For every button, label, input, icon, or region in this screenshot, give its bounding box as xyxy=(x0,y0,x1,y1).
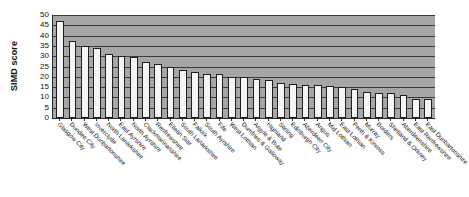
x-label-slot: Highland xyxy=(262,122,274,196)
bar xyxy=(302,85,310,118)
bar xyxy=(56,21,64,118)
x-label-slot: East Renfrewshire xyxy=(409,122,421,196)
x-label-slot: Stirling xyxy=(274,122,286,196)
bar xyxy=(240,77,248,118)
y-tick-label: 15 xyxy=(40,83,49,91)
bar xyxy=(387,93,395,118)
bar-cell xyxy=(324,15,336,118)
plot-area xyxy=(52,15,435,119)
bar-cell xyxy=(299,15,311,118)
bar xyxy=(363,92,371,118)
bar-cell xyxy=(164,15,176,118)
bar xyxy=(375,93,383,118)
y-tick-label: 30 xyxy=(40,52,49,60)
bar-cell xyxy=(250,15,262,118)
x-axis-category-labels: Glasgow CityDundee CityWest Dunbartonshi… xyxy=(52,122,434,196)
bar xyxy=(412,99,420,118)
bar xyxy=(167,67,175,118)
bar-cell xyxy=(397,15,409,118)
bar-cell xyxy=(226,15,238,118)
bar-cell xyxy=(103,15,115,118)
bar xyxy=(314,85,322,118)
bar xyxy=(69,41,77,118)
bar-cell xyxy=(348,15,360,118)
bar xyxy=(228,77,236,118)
bar-cell xyxy=(287,15,299,118)
bar xyxy=(216,74,224,118)
bar xyxy=(154,64,162,118)
x-label-slot: Eilean Siar xyxy=(163,122,175,196)
bar-cell xyxy=(128,15,140,118)
bar xyxy=(277,83,285,118)
x-label-slot: East Ayrshire xyxy=(114,122,126,196)
bar-cell xyxy=(275,15,287,118)
bar-cell xyxy=(189,15,201,118)
bar-cell xyxy=(54,15,66,118)
x-label-slot: West Lothian xyxy=(225,122,237,196)
bar-cell xyxy=(201,15,213,118)
bar-cell xyxy=(373,15,385,118)
x-label-slot: North Lanarkshire xyxy=(102,122,114,196)
y-tick-label: 20 xyxy=(40,73,49,81)
x-label-slot: Mid Lothian xyxy=(323,122,335,196)
x-label-slot: Borders xyxy=(372,122,384,196)
y-tick-label: 35 xyxy=(40,42,49,50)
bar xyxy=(118,56,126,118)
y-tick-label: 45 xyxy=(40,21,49,29)
bar-cell xyxy=(66,15,78,118)
bar-cell xyxy=(238,15,250,118)
x-label-slot: South Lanarkshire xyxy=(176,122,188,196)
bar xyxy=(253,79,261,118)
bar-cell xyxy=(336,15,348,118)
y-axis-tick-labels: 50454035302520151050 xyxy=(30,12,49,118)
bar xyxy=(326,86,334,118)
bar xyxy=(351,89,359,118)
x-label-slot: Murray xyxy=(360,122,372,196)
bar-cell xyxy=(385,15,397,118)
y-tick-label: 0 xyxy=(45,114,49,122)
x-label-slot: Inverclyde xyxy=(90,122,102,196)
x-label-slot: Glasgow City xyxy=(53,122,65,196)
y-axis-title: SIMD score xyxy=(6,18,22,114)
x-label-slot: Shetland & Orkney xyxy=(384,122,396,196)
y-tick-label: 50 xyxy=(40,11,49,19)
bar-cell xyxy=(361,15,373,118)
bar xyxy=(289,84,297,118)
bar-cell xyxy=(422,15,434,118)
x-label-slot: Perth & Kinross xyxy=(347,122,359,196)
bar xyxy=(265,80,273,118)
x-label-slot: West Dunbartonshire xyxy=(78,122,90,196)
bar xyxy=(81,46,89,118)
bar-cell xyxy=(263,15,275,118)
x-label-slot: South Ayrshire xyxy=(200,122,212,196)
x-label-slot: Fife xyxy=(212,122,224,196)
bar-cell xyxy=(410,15,422,118)
bar-cell xyxy=(152,15,164,118)
bar-cell xyxy=(91,15,103,118)
bar xyxy=(203,74,211,118)
bar-cell xyxy=(115,15,127,118)
x-label-slot: Aberdeen City xyxy=(298,122,310,196)
bar-cell xyxy=(79,15,91,118)
y-tick-label: 10 xyxy=(40,93,49,101)
x-label-slot: East Lothian xyxy=(335,122,347,196)
bar xyxy=(130,57,138,118)
x-label-slot: Renfrewshire xyxy=(151,122,163,196)
bar xyxy=(424,99,432,118)
x-label-slot: Dundee City xyxy=(65,122,77,196)
x-label-slot: East Dunbartonshire xyxy=(421,122,433,196)
bar xyxy=(142,62,150,118)
x-label-slot: Edinburgh City xyxy=(286,122,298,196)
bar xyxy=(191,72,199,118)
bar-cell xyxy=(140,15,152,118)
x-label-slot: Argyle & Bute xyxy=(249,122,261,196)
bar-series xyxy=(53,15,435,118)
bar xyxy=(105,54,113,118)
x-label-slot: Angus xyxy=(311,122,323,196)
bar xyxy=(400,95,408,118)
bar-cell xyxy=(213,15,225,118)
y-tick-label: 5 xyxy=(45,104,49,112)
x-label-slot: Falkirk xyxy=(188,122,200,196)
y-tick-label: 25 xyxy=(40,63,49,71)
